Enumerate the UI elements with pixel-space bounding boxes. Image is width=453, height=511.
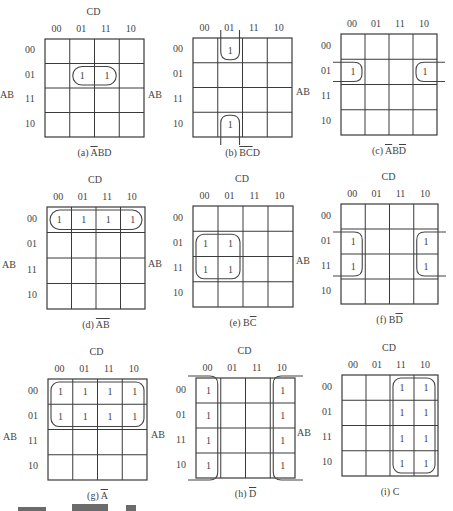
cell-one: 1 <box>400 433 405 444</box>
kmap-caption: (i) C <box>381 486 400 497</box>
cell-one: 1 <box>400 458 405 469</box>
cell-one: 1 <box>424 458 429 469</box>
cut-off-text-fragment <box>18 507 46 511</box>
cell-one: 1 <box>424 382 429 393</box>
cell-one: 1 <box>424 433 429 444</box>
cell-one: 1 <box>400 382 405 393</box>
caption-label: (i) C <box>381 486 400 497</box>
kmap-grid: 11111111 <box>0 0 453 511</box>
cut-off-text-fragment <box>72 504 108 511</box>
cut-off-text-fragment <box>126 505 136 511</box>
cell-one: 1 <box>400 407 405 418</box>
cell-one: 1 <box>424 407 429 418</box>
